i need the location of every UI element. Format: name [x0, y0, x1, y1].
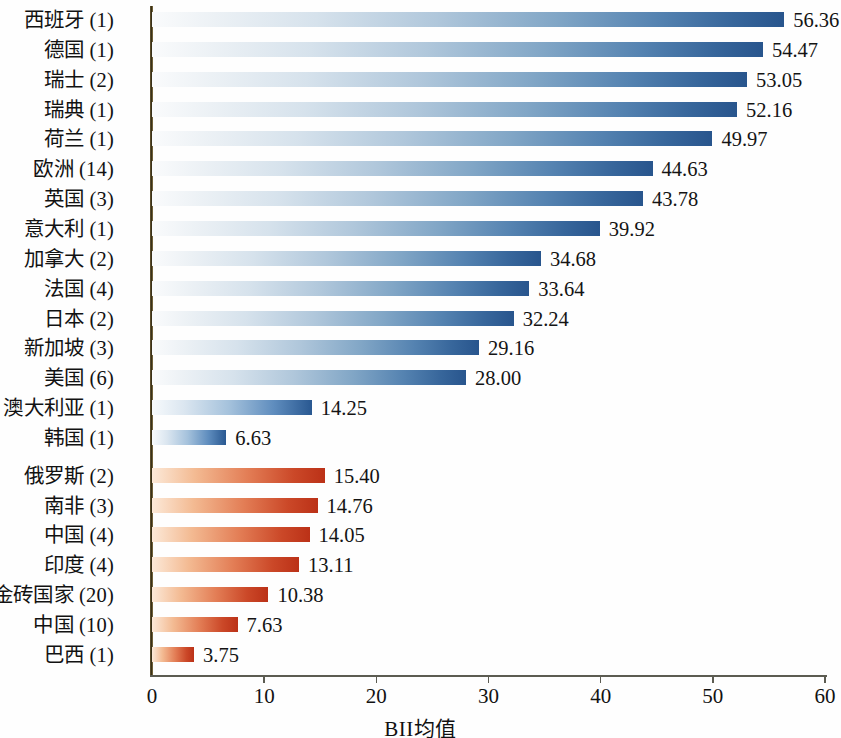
category-label: 欧洲 (14) — [33, 155, 114, 183]
bar-value-label: 52.16 — [737, 96, 792, 124]
bar-blue — [152, 281, 529, 296]
category-label: 南非 (3) — [44, 492, 114, 520]
bar-blue — [152, 221, 600, 236]
category-label: 西班牙 (1) — [24, 6, 114, 34]
category-label: 新加坡 (3) — [24, 334, 114, 362]
x-axis-title: BII均值 — [0, 712, 841, 738]
bar-row: 巴西 (1)3.75 — [152, 641, 825, 669]
bar-value-label: 39.92 — [600, 215, 655, 243]
bar-red — [152, 617, 238, 632]
bar-row: 瑞士 (2)53.05 — [152, 66, 825, 94]
bar-blue — [152, 370, 466, 385]
bar-row: 韩国 (1)6.63 — [152, 424, 825, 452]
bar-value-label: 32.24 — [514, 305, 569, 333]
bar-row: 欧洲 (14)44.63 — [152, 155, 825, 183]
x-axis-tick-label: 40 — [590, 684, 611, 709]
bar-blue — [152, 72, 747, 87]
bar-row: 金砖国家 (20)10.38 — [152, 581, 825, 609]
bar-red — [152, 587, 268, 602]
bar-row: 日本 (2)32.24 — [152, 305, 825, 333]
category-label: 美国 (6) — [44, 364, 114, 392]
category-label: 法国 (4) — [44, 275, 114, 303]
x-axis-tick — [600, 675, 602, 683]
bar-value-label: 15.40 — [325, 462, 380, 490]
bar-value-label: 33.64 — [529, 275, 584, 303]
bar-value-label: 3.75 — [194, 641, 239, 669]
bar-blue — [152, 340, 479, 355]
category-label: 中国 (10) — [33, 611, 114, 639]
category-label: 韩国 (1) — [44, 424, 114, 452]
bar-value-label: 43.78 — [643, 185, 698, 213]
bar-blue — [152, 430, 226, 445]
bar-row: 澳大利亚 (1)14.25 — [152, 394, 825, 422]
x-axis-tick-label: 30 — [478, 684, 499, 709]
bar-row: 荷兰 (1)49.97 — [152, 125, 825, 153]
bar-value-label: 14.25 — [312, 394, 367, 422]
bar-blue — [152, 251, 541, 266]
bar-value-label: 14.76 — [318, 492, 373, 520]
bar-value-label: 7.63 — [238, 611, 283, 639]
bar-value-label: 29.16 — [479, 334, 534, 362]
bar-red — [152, 647, 194, 662]
bar-row: 中国 (10)7.63 — [152, 611, 825, 639]
bar-value-label: 34.68 — [541, 245, 596, 273]
category-label: 瑞士 (2) — [44, 66, 114, 94]
bar-value-label: 14.05 — [310, 521, 365, 549]
x-axis-tick — [488, 675, 490, 683]
bar-value-label: 10.38 — [268, 581, 323, 609]
category-label: 英国 (3) — [44, 185, 114, 213]
bar-value-label: 13.11 — [299, 551, 353, 579]
category-label: 加拿大 (2) — [24, 245, 114, 273]
bar-red — [152, 498, 318, 513]
bar-blue — [152, 12, 784, 27]
bar-value-label: 49.97 — [712, 125, 767, 153]
bar-value-label: 56.36 — [784, 6, 839, 34]
bar-row: 瑞典 (1)52.16 — [152, 96, 825, 124]
bar-blue — [152, 102, 737, 117]
plot-area: 西班牙 (1)56.36德国 (1)54.47瑞士 (2)53.05瑞典 (1)… — [152, 6, 825, 675]
bar-value-label: 44.63 — [653, 155, 708, 183]
bar-value-label: 54.47 — [763, 36, 818, 64]
category-label: 荷兰 (1) — [44, 125, 114, 153]
x-axis-tick — [712, 675, 714, 683]
bar-red — [152, 468, 325, 483]
category-label: 中国 (4) — [44, 521, 114, 549]
bar-row: 美国 (6)28.00 — [152, 364, 825, 392]
bar-row: 意大利 (1)39.92 — [152, 215, 825, 243]
category-label: 澳大利亚 (1) — [3, 394, 114, 422]
bar-row: 德国 (1)54.47 — [152, 36, 825, 64]
bar-row: 加拿大 (2)34.68 — [152, 245, 825, 273]
category-label: 瑞典 (1) — [44, 96, 114, 124]
bar-value-label: 53.05 — [747, 66, 802, 94]
bar-blue — [152, 131, 712, 146]
x-axis-tick-label: 10 — [254, 684, 275, 709]
category-label: 意大利 (1) — [24, 215, 114, 243]
bar-row: 新加坡 (3)29.16 — [152, 334, 825, 362]
category-label: 日本 (2) — [44, 305, 114, 333]
bar-chart: 西班牙 (1)56.36德国 (1)54.47瑞士 (2)53.05瑞典 (1)… — [0, 0, 841, 738]
bar-red — [152, 527, 310, 542]
category-label: 金砖国家 (20) — [0, 581, 114, 609]
x-axis-tick-label: 0 — [147, 684, 158, 709]
bar-blue — [152, 161, 653, 176]
bar-blue — [152, 400, 312, 415]
category-label: 印度 (4) — [44, 551, 114, 579]
category-label: 俄罗斯 (2) — [24, 462, 114, 490]
x-axis-tick — [263, 675, 265, 683]
bar-row: 南非 (3)14.76 — [152, 492, 825, 520]
bar-blue — [152, 311, 514, 326]
bar-row: 俄罗斯 (2)15.40 — [152, 462, 825, 490]
x-axis-tick-label: 60 — [815, 684, 836, 709]
x-axis-tick-label: 20 — [366, 684, 387, 709]
bar-value-label: 6.63 — [226, 424, 271, 452]
x-axis-tick — [376, 675, 378, 683]
bar-row: 英国 (3)43.78 — [152, 185, 825, 213]
bar-row: 印度 (4)13.11 — [152, 551, 825, 579]
bar-value-label: 28.00 — [466, 364, 521, 392]
bar-row: 中国 (4)14.05 — [152, 521, 825, 549]
bar-row: 法国 (4)33.64 — [152, 275, 825, 303]
bar-red — [152, 557, 299, 572]
bar-blue — [152, 42, 763, 57]
bar-row: 西班牙 (1)56.36 — [152, 6, 825, 34]
x-axis-tick — [824, 675, 826, 683]
